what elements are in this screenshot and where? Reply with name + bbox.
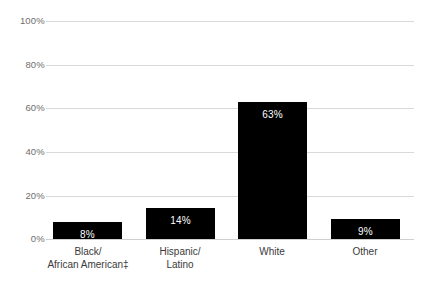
bar-value-label: 63% <box>238 109 307 120</box>
bar-hispanic-latino: 14% <box>146 208 215 239</box>
bar-other: 9% <box>331 219 400 239</box>
bar-white: 63% <box>238 102 307 239</box>
bar-value-label: 8% <box>53 229 122 240</box>
x-axis-category-label: White <box>222 245 322 258</box>
bar-black-african-american: 8% <box>53 222 122 239</box>
x-axis-category-label: Other <box>315 245 415 258</box>
bar-value-label: 14% <box>146 215 215 226</box>
bars-layer: 8% 14% 63% 9% <box>0 0 424 282</box>
x-axis-category-label: Hispanic/ Latino <box>125 245 235 271</box>
bar-value-label: 9% <box>331 226 400 237</box>
bar-chart: 100% 80% 60% 40% 20% 0% 8% 14% 63% 9% Bl… <box>0 0 424 282</box>
